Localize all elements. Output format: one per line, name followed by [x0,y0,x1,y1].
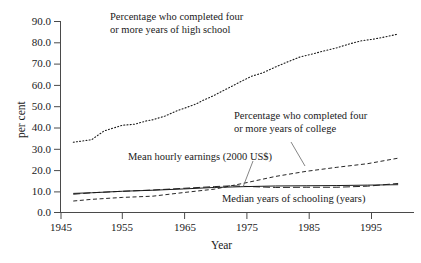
x-tick-label-1945: 1945 [36,222,86,233]
y-tick-label-10: 10.0 [0,186,51,197]
annotation-college-line1: Percentage who completed four [234,109,367,122]
x-tick-label-1985: 1985 [284,222,334,233]
x-tick-label-1965: 1965 [160,222,210,233]
y-tick-label-90: 90.0 [0,16,51,27]
x-tick-label-1955: 1955 [97,222,147,233]
annotation-college-line2: or more years of college [234,122,367,135]
leader-line-college [291,142,305,166]
y-tick-label-30: 30.0 [0,144,51,155]
y-tick-label-70: 70.0 [0,58,51,69]
x-tick-label-1975: 1975 [222,222,272,233]
x-tick-label-1995: 1995 [346,222,396,233]
annotation-high-school: Percentage who completed four or more ye… [110,10,243,37]
y-tick-label-0: 0.0 [0,207,51,218]
annotation-college: Percentage who completed four or more ye… [234,109,367,136]
annotation-high-school-line2: or more years of high school [110,23,243,36]
y-axis-ticks [54,22,61,213]
annotation-schooling-line1: Median years of schooling (years) [222,192,365,205]
leader-line-earnings [243,161,253,187]
x-axis-ticks [61,213,372,220]
annotation-earnings: Mean hourly earnings (2000 US$) [128,150,272,163]
y-tick-label-80: 80.0 [0,37,51,48]
annotation-earnings-line1: Mean hourly earnings (2000 US$) [128,150,272,163]
annotation-schooling: Median years of schooling (years) [222,192,365,205]
y-axis-title: per cent [16,101,28,138]
y-tick-label-60: 60.0 [0,80,51,91]
chart-figure: 90.0 80.0 70.0 60.0 50.0 40.0 30.0 20.0 … [0,0,421,263]
x-axis-title: Year [211,240,232,252]
annotation-high-school-line1: Percentage who completed four [110,10,243,23]
y-tick-label-20: 20.0 [0,165,51,176]
